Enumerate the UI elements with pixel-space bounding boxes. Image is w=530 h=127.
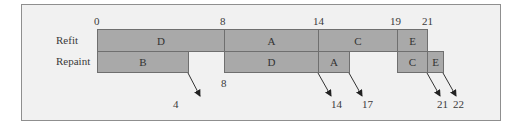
bottom-label-14: 14	[331, 98, 342, 110]
bottom-label-8: 8	[221, 77, 227, 89]
bottom-label-22: 22	[453, 98, 464, 110]
bottom-label-4: 4	[173, 98, 179, 110]
completion-arrows	[0, 0, 530, 127]
bottom-label-21: 21	[437, 98, 448, 110]
bottom-label-17: 17	[362, 98, 373, 110]
